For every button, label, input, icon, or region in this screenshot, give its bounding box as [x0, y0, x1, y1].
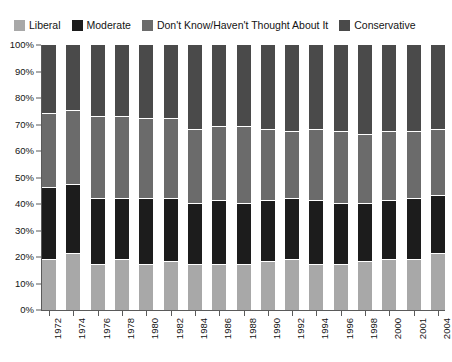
bar-segment-don-t-know-haven-t-thought-about-it[interactable]: [164, 119, 178, 199]
bar-segment-don-t-know-haven-t-thought-about-it[interactable]: [66, 111, 80, 185]
bar-1996[interactable]: [334, 45, 348, 310]
bar-segment-liberal[interactable]: [91, 265, 105, 310]
bar-segment-moderate[interactable]: [358, 204, 372, 262]
bar-segment-moderate[interactable]: [66, 185, 80, 254]
bar-segment-conservative[interactable]: [407, 45, 421, 132]
bar-1998[interactable]: [358, 45, 372, 310]
bar-segment-don-t-know-haven-t-thought-about-it[interactable]: [261, 130, 275, 202]
legend-label: Conservative: [354, 20, 415, 31]
bar-segment-conservative[interactable]: [164, 45, 178, 119]
bar-1992[interactable]: [285, 45, 299, 310]
bar-1990[interactable]: [261, 45, 275, 310]
bar-1980[interactable]: [139, 45, 153, 310]
bar-segment-don-t-know-haven-t-thought-about-it[interactable]: [382, 132, 396, 201]
bar-segment-conservative[interactable]: [42, 45, 56, 114]
bar-segment-liberal[interactable]: [66, 254, 80, 310]
legend-item-liberal: Liberal: [14, 20, 61, 31]
bar-segment-moderate[interactable]: [261, 201, 275, 262]
bar-segment-moderate[interactable]: [91, 199, 105, 265]
bar-segment-liberal[interactable]: [261, 262, 275, 310]
bar-segment-liberal[interactable]: [42, 260, 56, 310]
bar-segment-liberal[interactable]: [212, 265, 226, 310]
bar-segment-moderate[interactable]: [237, 204, 251, 265]
bar-1986[interactable]: [212, 45, 226, 310]
bar-2001[interactable]: [407, 45, 421, 310]
bar-1978[interactable]: [115, 45, 129, 310]
bar-segment-conservative[interactable]: [237, 45, 251, 127]
x-axis-tick-mark: [49, 311, 50, 316]
bar-segment-moderate[interactable]: [42, 188, 56, 260]
bar-2004[interactable]: [431, 45, 445, 310]
bar-segment-conservative[interactable]: [261, 45, 275, 130]
x-axis-tick-label: 1984: [199, 318, 209, 339]
bar-segment-moderate[interactable]: [285, 199, 299, 260]
bar-1976[interactable]: [91, 45, 105, 310]
bar-segment-liberal[interactable]: [358, 262, 372, 310]
bar-segment-don-t-know-haven-t-thought-about-it[interactable]: [42, 114, 56, 188]
bar-segment-conservative[interactable]: [309, 45, 323, 130]
bar-segment-conservative[interactable]: [431, 45, 445, 130]
x-axis-tick-label: 1978: [126, 318, 136, 339]
bar-segment-moderate[interactable]: [334, 204, 348, 265]
bar-segment-conservative[interactable]: [212, 45, 226, 127]
plot-area: [42, 45, 445, 310]
legend-swatch-icon: [339, 20, 350, 31]
bar-segment-liberal[interactable]: [164, 262, 178, 310]
bar-1984[interactable]: [188, 45, 202, 310]
bar-segment-liberal[interactable]: [407, 260, 421, 310]
bar-segment-don-t-know-haven-t-thought-about-it[interactable]: [237, 127, 251, 204]
bar-segment-liberal[interactable]: [285, 260, 299, 310]
bar-segment-don-t-know-haven-t-thought-about-it[interactable]: [115, 117, 129, 199]
bar-segment-liberal[interactable]: [431, 254, 445, 310]
y-axis-tick-mark: [36, 98, 41, 99]
bar-1972[interactable]: [42, 45, 56, 310]
bar-segment-moderate[interactable]: [188, 204, 202, 265]
bar-segment-liberal[interactable]: [188, 265, 202, 310]
bar-segment-conservative[interactable]: [382, 45, 396, 132]
bar-segment-moderate[interactable]: [382, 201, 396, 259]
bar-segment-don-t-know-haven-t-thought-about-it[interactable]: [188, 130, 202, 204]
bar-segment-moderate[interactable]: [115, 199, 129, 260]
bar-segment-moderate[interactable]: [309, 201, 323, 265]
legend-item-conservative: Conservative: [339, 20, 415, 31]
bar-segment-don-t-know-haven-t-thought-about-it[interactable]: [334, 132, 348, 204]
bar-segment-moderate[interactable]: [431, 196, 445, 254]
bar-segment-moderate[interactable]: [407, 199, 421, 260]
bar-segment-conservative[interactable]: [358, 45, 372, 135]
bar-1994[interactable]: [309, 45, 323, 310]
bar-1988[interactable]: [237, 45, 251, 310]
y-axis-tick-mark: [36, 230, 41, 231]
y-axis-tick-label: 100%: [10, 40, 34, 50]
bar-segment-moderate[interactable]: [139, 199, 153, 265]
bar-segment-conservative[interactable]: [188, 45, 202, 130]
bar-segment-don-t-know-haven-t-thought-about-it[interactable]: [407, 132, 421, 198]
bar-1982[interactable]: [164, 45, 178, 310]
bar-segment-moderate[interactable]: [212, 201, 226, 265]
bar-segment-conservative[interactable]: [334, 45, 348, 132]
bar-segment-conservative[interactable]: [285, 45, 299, 132]
chart-legend: Liberal Moderate Don't Know/Haven't Thou…: [0, 16, 447, 34]
x-axis-labels: 1972197419761978198019821984198619881990…: [42, 318, 445, 362]
bar-2000[interactable]: [382, 45, 396, 310]
bar-segment-don-t-know-haven-t-thought-about-it[interactable]: [358, 135, 372, 204]
bar-segment-liberal[interactable]: [382, 260, 396, 310]
bar-segment-conservative[interactable]: [91, 45, 105, 117]
bar-segment-liberal[interactable]: [115, 260, 129, 310]
bar-segment-conservative[interactable]: [139, 45, 153, 119]
bar-segment-liberal[interactable]: [309, 265, 323, 310]
bar-segment-conservative[interactable]: [66, 45, 80, 111]
bar-segment-don-t-know-haven-t-thought-about-it[interactable]: [285, 132, 299, 198]
bar-1974[interactable]: [66, 45, 80, 310]
bar-segment-liberal[interactable]: [237, 265, 251, 310]
y-axis-tick-mark: [36, 151, 41, 152]
bar-segment-liberal[interactable]: [334, 265, 348, 310]
y-axis-tick-label: 10%: [15, 279, 34, 289]
bar-segment-don-t-know-haven-t-thought-about-it[interactable]: [91, 117, 105, 199]
bar-segment-liberal[interactable]: [139, 265, 153, 310]
bar-segment-don-t-know-haven-t-thought-about-it[interactable]: [212, 127, 226, 201]
bar-segment-moderate[interactable]: [164, 199, 178, 263]
bar-segment-conservative[interactable]: [115, 45, 129, 117]
bar-segment-don-t-know-haven-t-thought-about-it[interactable]: [139, 119, 153, 199]
bar-segment-don-t-know-haven-t-thought-about-it[interactable]: [431, 130, 445, 196]
bar-segment-don-t-know-haven-t-thought-about-it[interactable]: [309, 130, 323, 202]
